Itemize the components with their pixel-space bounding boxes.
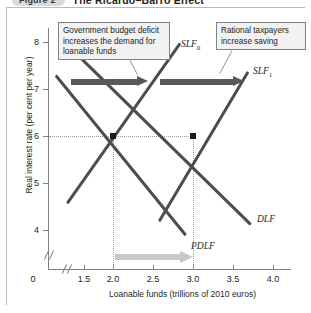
saving-callout-leader <box>219 50 232 73</box>
deficit-callout-leader <box>130 60 138 75</box>
saving-callout: Rational taxpayers increase saving <box>216 22 306 50</box>
curve-label-slf0: SLF0 <box>181 39 200 52</box>
x-tick-label-2.5: 2.5 <box>138 274 168 284</box>
x-tick-label-1.5: 1.5 <box>69 274 99 284</box>
origin-label: 0 <box>18 274 48 284</box>
x-tick-1.5 <box>84 265 85 270</box>
curve-label-slf0-sub: 0 <box>197 44 201 52</box>
x-tick-2.5 <box>153 265 154 270</box>
x-axis-title: Loanable funds (trillions of 2010 euros) <box>60 289 305 299</box>
supply-shift-arrow <box>160 76 244 87</box>
curve-label-dlf: DLF <box>257 214 275 224</box>
y-tick-6 <box>43 136 48 137</box>
quantity-increase-arrow-shaft <box>115 254 180 260</box>
y-axis-title: Real interest rate (per cent per year) <box>24 40 34 210</box>
quantity-increase-arrow-head <box>180 251 193 263</box>
figure-container: Figure 2 The Ricardo–Barro Effect 8 7 6 … <box>0 0 311 313</box>
figure-badge: Figure 2 <box>12 0 65 6</box>
supply-shift-arrow-head <box>233 76 244 86</box>
y-axis <box>48 28 49 270</box>
curve-label-slf0-text: SLF <box>181 39 197 49</box>
demand-shift-arrow-head <box>137 76 148 86</box>
figure-header: Figure 2 The Ricardo–Barro Effect <box>0 0 311 8</box>
x-tick-label-2.0: 2.0 <box>98 274 128 284</box>
guide-quantity-initial <box>113 137 114 269</box>
curve-label-pdlf: PDLF <box>191 241 215 251</box>
demand-shift-arrow-shaft <box>71 79 137 85</box>
y-tick-8 <box>43 42 48 43</box>
y-tick-7 <box>43 89 48 90</box>
equilibrium-point-initial <box>110 133 116 139</box>
supply-shift-arrow-shaft <box>160 79 233 85</box>
guide-interest-rate <box>49 136 195 137</box>
curve-label-slf1-text: SLF <box>253 66 269 76</box>
x-tick-label-3.5: 3.5 <box>218 274 248 284</box>
demand-shift-arrow <box>71 76 148 87</box>
curve-label-slf1-sub: 1 <box>269 71 273 79</box>
curve-label-slf1: SLF1 <box>253 66 272 79</box>
x-tick-3.5 <box>233 265 234 270</box>
left-rule <box>6 7 7 305</box>
curve-slf0 <box>66 42 181 204</box>
x-tick-4.0 <box>273 265 274 270</box>
y-tick-5 <box>43 183 48 184</box>
quantity-increase-arrow <box>115 251 193 263</box>
x-tick-label-3.0: 3.0 <box>178 274 208 284</box>
y-tick-label-4: 4 <box>17 225 39 235</box>
y-tick-4 <box>43 230 48 231</box>
x-tick-label-4.0: 4.0 <box>258 274 288 284</box>
equilibrium-point-new <box>190 133 196 139</box>
figure-title: The Ricardo–Barro Effect <box>73 0 204 6</box>
deficit-callout: Government budget deficit increases the … <box>58 22 170 60</box>
y-axis-break-2 <box>49 250 54 260</box>
